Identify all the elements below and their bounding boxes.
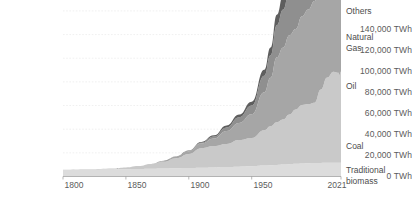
xtick-label-1950: 1950 bbox=[254, 180, 273, 190]
energy-stacked-area-chart: 140,000 TWh 120,000 TWh 100,000 TWh 80,0… bbox=[0, 0, 412, 203]
series-label-natural-gas: Natural Gas bbox=[346, 32, 373, 53]
series-label-traditional-biomass: Traditional biomass bbox=[346, 165, 385, 186]
series-areas bbox=[63, 0, 341, 177]
series-label-coal: Coal bbox=[346, 141, 363, 152]
xtick-label-1850: 1850 bbox=[128, 180, 147, 190]
series-label-others: Others bbox=[346, 6, 372, 17]
xtick-label-2021: 2021 bbox=[328, 180, 347, 190]
series-label-oil: Oil bbox=[346, 81, 356, 92]
xtick-label-1900: 1900 bbox=[191, 180, 210, 190]
xtick-label-1800: 1800 bbox=[65, 180, 84, 190]
